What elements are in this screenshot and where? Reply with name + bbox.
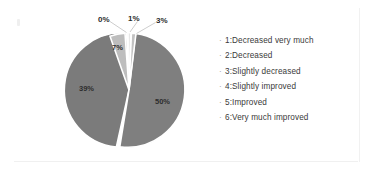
pie-label-zero-percent: 0% — [98, 15, 110, 24]
pie-label-one-percent: 1% — [128, 14, 140, 23]
pie-label-fifty-percent: 50% — [155, 97, 170, 106]
legend-item-label: 2:Decreased — [225, 48, 273, 63]
figure-right-border — [359, 8, 360, 162]
pie-label-thirtynine-percent: 39% — [79, 84, 94, 93]
pie-label-three-percent: 3% — [156, 16, 168, 25]
legend-item-label: 1:Decreased very much — [225, 33, 314, 48]
legend-item-label: 5:Improved — [225, 95, 267, 110]
leader-line-three — [137, 23, 156, 34]
legend-item-5: · 5:Improved — [219, 95, 359, 110]
legend-item-4: · 4:Slightly improved — [219, 79, 359, 94]
pie-chart-area: 0% 1% 3% 7% 39% 50% — [0, 0, 220, 172]
legend-item-2: · 2:Decreased — [219, 48, 359, 63]
legend-item-label: 3:Slightly decreased — [225, 64, 301, 79]
legend-item-3: · 3:Slightly decreased — [219, 64, 359, 79]
legend-item-label: 4:Slightly improved — [225, 79, 296, 94]
legend-item-1: · 1:Decreased very much — [219, 33, 359, 48]
pie-chart-figure: 0% 1% 3% 7% 39% 50% · 1:Decreased very m… — [0, 0, 371, 172]
pie-label-seven-percent: 7% — [112, 43, 123, 52]
legend-item-6: · 6:Very much improved — [219, 110, 359, 125]
legend-item-label: 6:Very much improved — [225, 110, 308, 125]
leader-line-zero — [110, 22, 127, 33]
leader-line-one — [130, 22, 138, 33]
legend: · 1:Decreased very much · 2:Decreased · … — [219, 33, 359, 125]
pie-chart-svg: 0% 1% 3% 7% 39% 50% — [0, 0, 220, 172]
